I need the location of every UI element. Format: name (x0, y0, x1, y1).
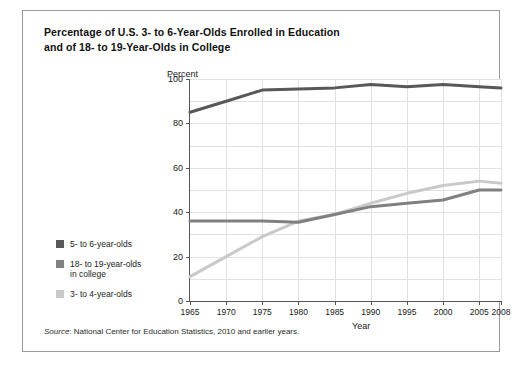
legend-item[interactable]: 3- to 4-year-olds (56, 289, 184, 300)
x-tick-label: 1985 (325, 307, 344, 317)
x-tick-label: 1990 (361, 307, 380, 317)
source-text: : National Center for Education Statisti… (69, 327, 299, 336)
legend-item[interactable]: 18- to 19-year-olds in college (56, 259, 184, 280)
x-axis-title: Year (352, 321, 370, 331)
legend-swatch-icon (56, 260, 64, 268)
plot-area: 020406080100 196519701975198019851990199… (189, 79, 501, 302)
x-tick-mark (190, 301, 191, 305)
legend-swatch-icon (56, 240, 64, 248)
x-tick-mark (262, 301, 263, 305)
x-tick-label: 1980 (289, 307, 308, 317)
y-tick-label: 80 (173, 118, 183, 128)
x-tick-label: 2005 (470, 307, 489, 317)
x-tick-label: 2008 (492, 307, 511, 317)
x-tick-mark (501, 301, 502, 305)
series-layer (190, 79, 501, 301)
x-tick-mark (335, 301, 336, 305)
x-tick-mark (407, 301, 408, 305)
x-tick-mark (226, 301, 227, 305)
series-line (190, 190, 501, 222)
page-title: Percentage of U.S. 3- to 6-Year-Olds Enr… (44, 25, 464, 55)
y-tick-label: 100 (168, 74, 183, 84)
source-label: Source (44, 327, 69, 336)
x-tick-label: 1975 (253, 307, 272, 317)
x-tick-label: 1965 (181, 307, 200, 317)
chart-legend: 5- to 6-year-olds18- to 19-year-olds in … (56, 239, 184, 308)
legend-label: 3- to 4-year-olds (70, 289, 132, 300)
y-tick-label: 60 (173, 163, 183, 173)
x-tick-label: 1970 (217, 307, 236, 317)
x-tick-label: 2000 (434, 307, 453, 317)
source-note: Source: National Center for Education St… (44, 327, 299, 336)
x-tick-label: 1995 (398, 307, 417, 317)
legend-label: 5- to 6-year-olds (70, 239, 132, 250)
legend-swatch-icon (56, 290, 64, 298)
title-line-1: Percentage of U.S. 3- to 6-Year-Olds Enr… (44, 25, 464, 40)
x-tick-mark (298, 301, 299, 305)
legend-item[interactable]: 5- to 6-year-olds (56, 239, 184, 250)
plot-frame: Percent 020406080100 1965197019751980198… (167, 69, 502, 301)
title-line-2: and of 18- to 19-Year-Olds in College (44, 40, 464, 55)
x-tick-mark (479, 301, 480, 305)
x-tick-mark (371, 301, 372, 305)
y-tick-label: 40 (173, 207, 183, 217)
legend-label: 18- to 19-year-olds in college (70, 259, 141, 280)
x-tick-mark (443, 301, 444, 305)
figure-panel: Percentage of U.S. 3- to 6-Year-Olds Enr… (22, 10, 500, 352)
series-line (190, 85, 501, 113)
